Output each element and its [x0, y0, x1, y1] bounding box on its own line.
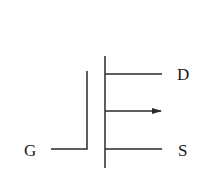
- drain-label: D: [177, 65, 189, 84]
- gate-label: G: [24, 141, 36, 160]
- gate-line: [51, 71, 87, 149]
- mosfet-diagram: D S G: [0, 0, 205, 177]
- source-label: S: [178, 141, 187, 160]
